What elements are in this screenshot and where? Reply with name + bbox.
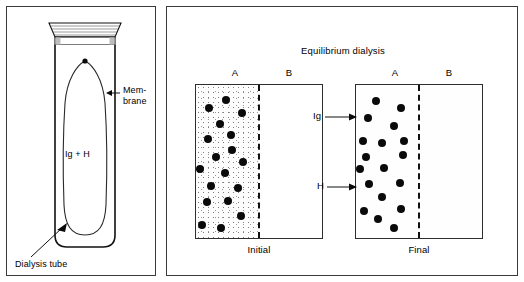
tube-contents-label: Ig + H (65, 149, 90, 160)
tube-body-outline (55, 45, 115, 247)
tube-collar-icon (55, 37, 115, 45)
bag-knot-icon (82, 58, 87, 63)
dialysis-tube-label: Dialysis tube (15, 259, 67, 270)
dialysis-tube-panel: Mem- brane Ig + H Dialysis tube (6, 6, 156, 276)
pointer-arrows (167, 7, 519, 277)
tube-rim-icon (49, 23, 121, 37)
tube-stage: Mem- brane Ig + H Dialysis tube (7, 7, 155, 275)
equilibrium-dialysis-panel: Equilibrium dialysis A B Initial A B (166, 6, 518, 276)
ig-arrow-icon (325, 114, 357, 121)
dialysis-tube-illustration (7, 7, 155, 275)
h-arrow-icon (327, 184, 357, 191)
figure-root: Mem- brane Ig + H Dialysis tube Equilibr… (0, 0, 524, 282)
membrane-label: Mem- brane (123, 85, 147, 107)
